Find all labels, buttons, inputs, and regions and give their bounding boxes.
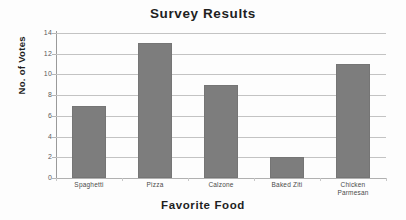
y-axis-tick-mark <box>52 95 56 96</box>
chart-title: Survey Results <box>0 6 406 21</box>
chart-figure: Survey Results No. of Votes 02468101214 … <box>0 0 406 220</box>
y-axis-tick-mark <box>52 116 56 117</box>
y-axis-tick-label: 12 <box>32 50 52 57</box>
y-axis-tick-label: 0 <box>32 174 52 181</box>
x-axis-title: Favorite Food <box>0 199 406 211</box>
y-axis-tick-label: 2 <box>32 153 52 160</box>
x-axis-category-label-line: Chicken <box>320 181 386 189</box>
x-axis-category-label: Calzone <box>188 181 254 189</box>
y-axis-tick-label: 8 <box>32 91 52 98</box>
x-axis-category-label-line: Calzone <box>188 181 254 189</box>
bar[interactable] <box>72 106 106 179</box>
y-axis-tick-label: 6 <box>32 112 52 119</box>
bar[interactable] <box>270 157 304 178</box>
y-axis-tick-mark <box>52 74 56 75</box>
x-axis-category-label-line: Parmesan <box>320 189 386 197</box>
x-axis-line <box>56 178 387 179</box>
y-axis-tick-mark <box>52 157 56 158</box>
y-axis-tick-mark <box>52 33 56 34</box>
y-axis-title: No. of Votes <box>16 73 27 95</box>
y-axis-tick-label: 14 <box>32 29 52 36</box>
bar[interactable] <box>204 85 238 178</box>
bar[interactable] <box>138 43 172 178</box>
bars-layer <box>56 33 386 178</box>
x-axis-category-label: Baked Ziti <box>254 181 320 189</box>
y-axis-tick-label: 4 <box>32 133 52 140</box>
y-axis-tick-mark <box>52 54 56 55</box>
x-axis-category-label: Spaghetti <box>56 181 122 189</box>
bar[interactable] <box>336 64 370 178</box>
x-axis-category-label-line: Baked Ziti <box>254 181 320 189</box>
y-axis-tick-label: 10 <box>32 70 52 77</box>
x-axis-category-label-line: Pizza <box>122 181 188 189</box>
x-axis-category-label: Pizza <box>122 181 188 189</box>
x-axis-category-label-line: Spaghetti <box>56 181 122 189</box>
x-axis-tick-mark <box>386 178 387 181</box>
y-axis-tick-mark <box>52 137 56 138</box>
x-axis-category-label: ChickenParmesan <box>320 181 386 197</box>
y-axis-tick-labels: 02468101214 <box>30 33 52 178</box>
